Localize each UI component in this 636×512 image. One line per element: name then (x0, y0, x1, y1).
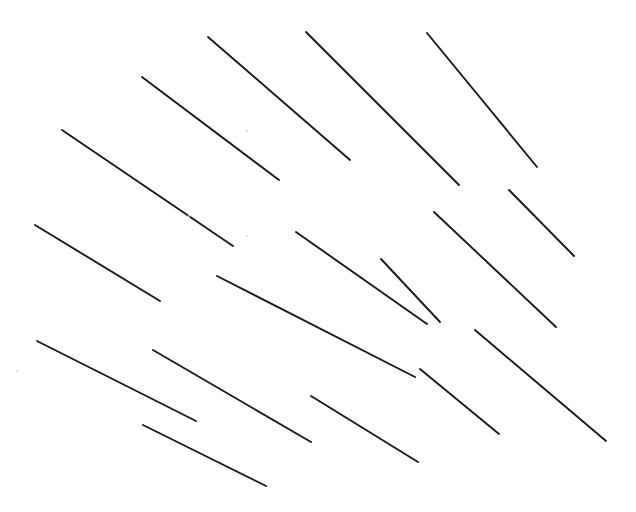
background-speck (246, 130, 248, 132)
canvas-background (0, 0, 636, 512)
background-speck (188, 215, 190, 217)
stimulus-canvas (0, 0, 636, 512)
line-segment-field (0, 0, 636, 512)
background-speck (246, 235, 248, 237)
background-speck (16, 370, 18, 372)
